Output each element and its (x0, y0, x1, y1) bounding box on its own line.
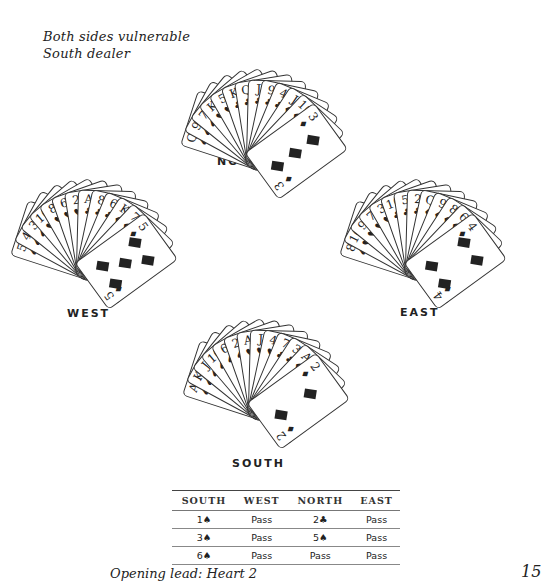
card-index-bottom: 3♦ (270, 169, 298, 194)
diamond-pip-icon (274, 410, 287, 421)
seat-label-east: EAST (400, 306, 439, 319)
auction-table: SOUTH WEST NORTH EAST 1♠ Pass 2♣ Pass 3♠… (172, 490, 400, 565)
auction-header-south: SOUTH (172, 491, 236, 511)
diamond-pip-icon (141, 255, 154, 266)
bid-cell: 5♠ (287, 529, 353, 547)
diamond-pip-icon (306, 135, 319, 146)
bid-cell: Pass (236, 511, 288, 529)
bid-cell: Pass (353, 547, 400, 565)
diamond-pip-icon (425, 261, 438, 272)
page-number: 15 (521, 562, 541, 581)
bid-cell: Pass (236, 547, 288, 565)
bid-cell: Pass (236, 529, 288, 547)
diamond-pip-icon (304, 388, 317, 399)
seat-label-west: WEST (67, 307, 110, 320)
opening-lead-text: Opening lead: Heart 2 (110, 566, 257, 581)
bid-cell: Pass (353, 529, 400, 547)
card-index-bottom: 5♦ (100, 279, 128, 304)
dealer-text: South dealer (43, 45, 190, 62)
bid-cell: Pass (353, 511, 400, 529)
auction-header-east: EAST (353, 491, 400, 511)
bid-cell: Pass (287, 547, 353, 565)
auction-row: 3♠ Pass 5♠ Pass (172, 529, 400, 547)
diamond-pip-icon (470, 255, 483, 266)
auction-row: 6♠ Pass Pass Pass (172, 547, 400, 565)
deal-conditions: Both sides vulnerable South dealer (43, 28, 190, 62)
diamond-pip-icon (119, 258, 132, 269)
bid-cell: 2♣ (287, 511, 353, 529)
diamond-pip-icon (457, 237, 470, 248)
diamond-pip-icon (289, 148, 302, 159)
vulnerability-text: Both sides vulnerable (43, 28, 190, 45)
bid-cell: 3♠ (172, 529, 236, 547)
card-index-bottom: 4♦ (429, 279, 457, 304)
auction-header-row: SOUTH WEST NORTH EAST (172, 491, 400, 511)
diamond-pip-icon (128, 237, 141, 248)
card-index-bottom: 2♦ (272, 419, 300, 444)
seat-label-south: SOUTH (232, 457, 285, 470)
bid-cell: 6♠ (172, 547, 236, 565)
bid-cell: 1♠ (172, 511, 236, 529)
auction-header-west: WEST (236, 491, 288, 511)
diamond-pip-icon (271, 161, 284, 172)
auction-header-north: NORTH (287, 491, 353, 511)
auction-row: 1♠ Pass 2♣ Pass (172, 511, 400, 529)
diamond-pip-icon (96, 261, 109, 272)
